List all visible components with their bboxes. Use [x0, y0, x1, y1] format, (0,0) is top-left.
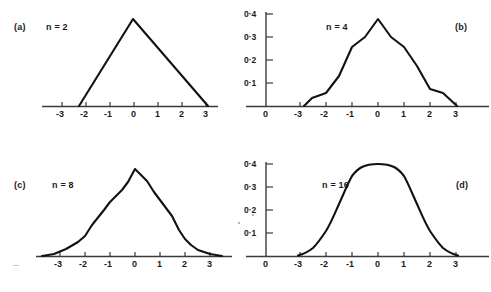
scan-speck-corner	[13, 265, 19, 266]
panel-a-xtick-3: 3	[203, 109, 208, 119]
panel-b-ytick-01: 0·1	[244, 78, 256, 88]
panel-c-xtick-2: 2	[182, 259, 187, 269]
panel-d-xtick-0: 0	[375, 259, 380, 269]
panel-b-xtick--3: -3	[294, 109, 302, 119]
panel-d-xtick-1: 1	[401, 259, 406, 269]
panel-d-ytick-04: 0·4	[244, 159, 256, 169]
panel-b-xtick-1: 1	[401, 109, 406, 119]
panel-b-xtick-3: 3	[453, 109, 458, 119]
panel-a-xtick-0: 0	[131, 109, 136, 119]
panel-b-xtick-2: 2	[427, 109, 432, 119]
panel-b-labels: 0·4 0·3 0·2 0·1 0 -3 -2 -1 0 1 2 3	[246, 0, 491, 125]
panel-d-xtick-3: 3	[453, 259, 458, 269]
panel-d-ytick-01: 0·1	[244, 228, 256, 238]
panel-c-xtick--3: -3	[54, 259, 62, 269]
panel-b-ytick-02: 0·2	[244, 55, 256, 65]
panel-c-xtick--2: -2	[79, 259, 87, 269]
panel-c-xtick-3: 3	[207, 259, 212, 269]
panel-d-xtick--1: -1	[346, 259, 354, 269]
panel-b-ytick-04: 0·4	[244, 9, 256, 19]
panel-d-xtick--2: -2	[320, 259, 328, 269]
panel-d-xtick--3: -3	[294, 259, 302, 269]
panel-b-ytick-03: 0·3	[244, 32, 256, 42]
panel-a-xtick--1: -1	[104, 109, 112, 119]
panel-a-xtick-1: 1	[155, 109, 160, 119]
panel-c-xtick-1: 1	[157, 259, 162, 269]
panel-d-ytick-03: 0·3	[244, 182, 256, 192]
panel-a-x-ticklabels: -3 -2 -1 0 1 2 3	[0, 0, 220, 125]
panel-d-y-origin-label: 0	[263, 259, 268, 269]
panel-d-ytick-02: 0·2	[244, 205, 256, 215]
panel-a-xtick--3: -3	[56, 109, 64, 119]
panel-c-xtick--1: -1	[104, 259, 112, 269]
panel-b-xtick--1: -1	[346, 109, 354, 119]
panel-b-y-origin-label: 0	[263, 109, 268, 119]
panel-d-labels: 0·4 0·3 0·2 0·1 0 -3 -2 -1 0 1 2 3	[246, 150, 491, 285]
panel-a-xtick--2: -2	[80, 109, 88, 119]
scan-speck-right	[238, 222, 240, 224]
panel-c-xtick-0: 0	[132, 259, 137, 269]
scan-speck-left	[252, 214, 254, 216]
panel-a-xtick-2: 2	[179, 109, 184, 119]
figure-container: (a) n = 2 -3 -2 -1 0 1 2 3 (b) n = 4	[0, 0, 491, 292]
panel-d-xtick-2: 2	[427, 259, 432, 269]
panel-b-xtick-0: 0	[375, 109, 380, 119]
panel-b-xtick--2: -2	[320, 109, 328, 119]
panel-c-x-ticklabels: -3 -2 -1 0 1 2 3	[0, 150, 235, 285]
